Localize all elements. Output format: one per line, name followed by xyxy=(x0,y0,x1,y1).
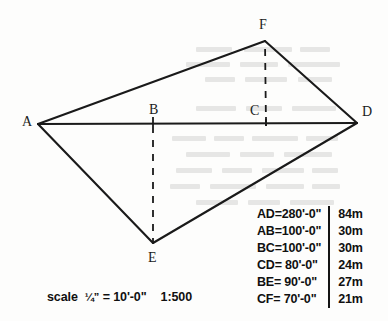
scale-note-ratio: 1:500 xyxy=(161,290,192,304)
dimension-imperial: BE= 90'-0" xyxy=(257,274,329,291)
dimension-imperial: CF= 70'-0" xyxy=(257,291,329,308)
scale-note-imperial: 10'-0" xyxy=(113,290,146,304)
vertex-label-D: D xyxy=(362,105,372,119)
dimension-row: AB=100'-0"30m xyxy=(257,223,363,240)
dimension-table-body: AD=280'-0"84mAB=100'-0"30mBC=100'-0"30mC… xyxy=(257,206,363,308)
scale-note-fraction: ¼” xyxy=(85,291,99,303)
dimension-metric: 30m xyxy=(329,223,362,240)
dimension-metric: 30m xyxy=(329,240,362,257)
dimension-metric: 21m xyxy=(329,291,362,308)
scale-note-equals: = xyxy=(103,290,110,304)
dimension-metric: 24m xyxy=(329,257,362,274)
scale-note-prefix: scale xyxy=(47,290,78,304)
dimension-table: AD=280'-0"84mAB=100'-0"30mBC=100'-0"30mC… xyxy=(257,206,363,308)
edge-AE xyxy=(38,124,153,243)
dimension-row: BC=100'-0"30m xyxy=(257,240,363,257)
dimension-imperial: AD=280'-0" xyxy=(257,206,329,223)
diagram-page: ABCDEF AD=280'-0"84mAB=100'-0"30mBC=100'… xyxy=(0,0,388,321)
dimension-imperial: AB=100'-0" xyxy=(257,223,329,240)
dimension-imperial: BC=100'-0" xyxy=(257,240,329,257)
dimension-metric: 84m xyxy=(329,206,362,223)
dimension-imperial: CD= 80'-0" xyxy=(257,257,329,274)
dimension-row: CD= 80'-0"24m xyxy=(257,257,363,274)
dimension-row: AD=280'-0"84m xyxy=(257,206,363,223)
dimension-row: CF= 70'-0"21m xyxy=(257,291,363,308)
dimension-metric: 27m xyxy=(329,274,362,291)
vertex-label-A: A xyxy=(22,115,32,129)
vertex-label-B: B xyxy=(149,103,158,117)
scale-note: scale¼” = 10'-0"1:500 xyxy=(47,290,192,304)
offset-CF xyxy=(265,41,266,126)
dashed-offset-group xyxy=(153,41,266,243)
vertex-label-F: F xyxy=(259,18,267,32)
vertex-label-E: E xyxy=(148,251,157,265)
vertex-label-C: C xyxy=(250,104,259,118)
baseline-point-ticks xyxy=(153,117,266,126)
edge-FD xyxy=(265,41,357,123)
edge-AD xyxy=(38,123,357,124)
dimension-row: BE= 90'-0"27m xyxy=(257,274,363,291)
